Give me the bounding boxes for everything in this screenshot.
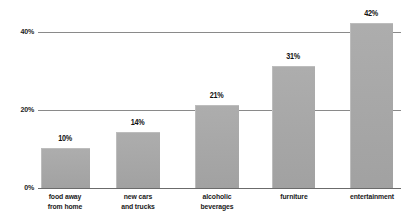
gridline-40 <box>38 32 401 33</box>
category-label-line-1: new cars <box>102 192 174 202</box>
category-label-line-1: entertainment <box>335 192 409 202</box>
bar-value-furniture: 31% <box>275 51 311 61</box>
y-tick-label-0: 0% <box>4 183 34 192</box>
bar-alcoholic-beverages[interactable] <box>195 105 239 188</box>
category-label-line-2: from home <box>29 202 101 212</box>
bar-value-new-cars-and-trucks: 14% <box>119 117 156 127</box>
category-label-line-1: furniture <box>258 192 330 202</box>
plot-area: 40% 20% 0% 10% food away from home 14% n… <box>0 0 413 222</box>
category-label-line-2: beverages <box>181 202 253 212</box>
bar-food-away-from-home[interactable] <box>41 148 90 188</box>
category-label-furniture: furniture <box>258 192 330 202</box>
category-label-new-cars-and-trucks: new cars and trucks <box>102 192 174 211</box>
y-tick-label-20: 20% <box>4 105 34 114</box>
bar-chart: 40% 20% 0% 10% food away from home 14% n… <box>0 0 413 222</box>
category-label-line-2: and trucks <box>102 202 174 212</box>
gridline-0-baseline <box>38 188 401 189</box>
category-label-food-away-from-home: food away from home <box>29 192 101 211</box>
bar-new-cars-and-trucks[interactable] <box>116 132 160 188</box>
bar-entertainment[interactable] <box>350 23 393 188</box>
category-label-entertainment: entertainment <box>335 192 409 202</box>
y-tick-label-40: 40% <box>4 27 34 36</box>
bar-furniture[interactable] <box>272 66 315 188</box>
category-label-alcoholic-beverages: alcoholic beverages <box>181 192 253 211</box>
bar-value-food-away-from-home: 10% <box>45 133 86 143</box>
bar-value-entertainment: 42% <box>353 8 389 18</box>
category-label-line-1: food away <box>29 192 101 202</box>
bar-value-alcoholic-beverages: 21% <box>198 90 235 100</box>
category-label-line-1: alcoholic <box>181 192 253 202</box>
